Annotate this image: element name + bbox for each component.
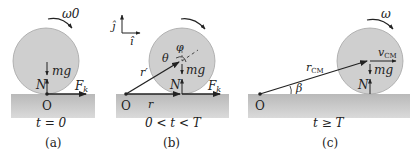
mg-label-a: mg (52, 64, 71, 78)
rotation-arrow-b (181, 19, 205, 29)
time-label-a: t = 0 (36, 116, 67, 130)
ground-a (11, 94, 95, 118)
caption-b: (b) (163, 136, 180, 150)
origin-label-c: O (255, 99, 265, 113)
beta-arc (290, 86, 291, 94)
theta-label: θ (162, 52, 169, 65)
beta-label: β (295, 82, 302, 95)
omega-label: ω (381, 7, 391, 21)
panel-c: ω vCM rCM β mg N O t ≥ T (c) (248, 7, 410, 150)
N-label-c: N (357, 78, 369, 92)
ground-c (248, 94, 410, 118)
omega0-label: ω0 (62, 7, 80, 21)
origin-dot-b (124, 92, 128, 96)
mg-label-b: mg (186, 63, 205, 77)
time-label-b: 0 < t < T (145, 116, 202, 130)
Fk-label-a: Fk (74, 79, 88, 94)
caption-a: (a) (45, 136, 62, 150)
axes-icon: ĵ î (110, 15, 140, 48)
origin-dot-a (45, 92, 49, 96)
mg-label-c: mg (374, 63, 393, 77)
r-label: r (148, 98, 154, 111)
rcm-label: rCM (306, 61, 324, 75)
N-label-a: N (35, 78, 47, 92)
origin-label-b: O (121, 99, 131, 113)
rolling-disk-diagram: ω0 mg N Fk O t = 0 (a) ĵ î φ θ r′ (0, 0, 419, 166)
origin-dot-c (258, 92, 262, 96)
i-hat-label: î (130, 35, 135, 48)
origin-label-a: O (42, 99, 52, 113)
time-label-c: t ≥ T (313, 116, 345, 130)
N-label-b: N (169, 78, 181, 92)
j-hat-label: ĵ (110, 20, 116, 33)
Fk-label-b: Fk (207, 79, 221, 94)
r-prime-label: r′ (140, 66, 148, 79)
panel-b: ĵ î φ θ r′ mg N r Fk O 0 < t < T (b) (110, 15, 229, 150)
panel-a: ω0 mg N Fk O t = 0 (a) (11, 7, 95, 150)
ground-b (116, 94, 229, 118)
phi-label: φ (176, 41, 184, 54)
caption-c: (c) (322, 136, 338, 150)
